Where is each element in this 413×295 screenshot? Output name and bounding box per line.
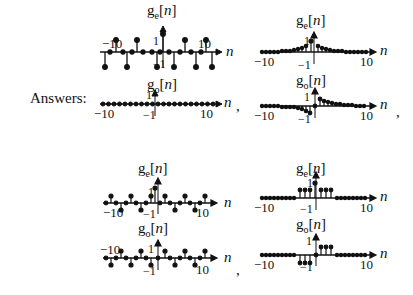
tick-pos10: 10 bbox=[196, 262, 209, 278]
tick-neg-one: −1 bbox=[143, 108, 156, 123]
go-stem-plot bbox=[0, 150, 260, 295]
tick-neg-one: −1 bbox=[298, 112, 311, 127]
panel-top-right: ge[n] −10 10 1 −1 n go[n] bbox=[260, 0, 413, 140]
tick-pos10: 10 bbox=[360, 257, 373, 273]
comma: , bbox=[236, 98, 240, 115]
tick-neg10: −10 bbox=[100, 242, 120, 258]
tick-neg10: −10 bbox=[94, 106, 114, 122]
go-stem-plot bbox=[0, 0, 260, 140]
tick-neg-one: −1 bbox=[300, 260, 313, 275]
tick-pos10: 10 bbox=[200, 106, 213, 122]
go-stem-plot bbox=[260, 0, 413, 140]
n-label: n bbox=[380, 96, 388, 113]
panel-bottom-right: ge[n] −10 10 1 −1 n go[n] bbox=[260, 150, 413, 295]
comma: , bbox=[236, 262, 240, 279]
n-label: n bbox=[224, 94, 232, 111]
tick-one: 1 bbox=[146, 88, 152, 103]
n-label: n bbox=[224, 249, 232, 266]
tick-neg10: −10 bbox=[254, 257, 274, 273]
tick-neg-one: −1 bbox=[143, 264, 156, 279]
tick-one: 1 bbox=[306, 234, 312, 249]
panel-top-left: ge[n] bbox=[0, 0, 260, 140]
panel-bottom-left: ge[n] − bbox=[0, 150, 260, 295]
tick-neg10: −10 bbox=[254, 108, 274, 124]
tick-one: 1 bbox=[148, 242, 154, 257]
n-label: n bbox=[380, 245, 388, 262]
comma: , bbox=[396, 104, 400, 121]
tick-one: 1 bbox=[304, 90, 310, 105]
go-stem-plot bbox=[260, 150, 413, 295]
tick-pos10: 10 bbox=[360, 108, 373, 124]
